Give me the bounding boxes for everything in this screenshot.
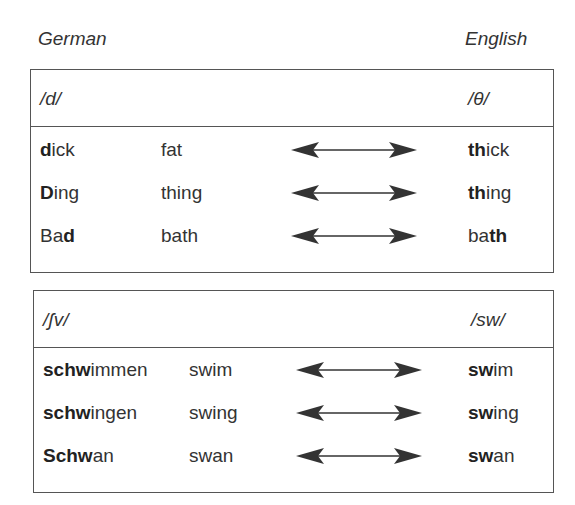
double-headed-arrow-icon bbox=[291, 130, 417, 170]
english-word: swan bbox=[468, 436, 515, 476]
german-word: Schwan bbox=[43, 436, 114, 476]
german-word: dick bbox=[40, 130, 75, 170]
double-headed-arrow-icon bbox=[296, 393, 422, 433]
double-headed-arrow-icon bbox=[291, 216, 417, 256]
word-pair-row: dick fat thick bbox=[31, 130, 553, 170]
english-phoneme: /θ/ bbox=[468, 88, 489, 110]
english-word: thick bbox=[468, 130, 509, 170]
english-column-label: English bbox=[465, 28, 527, 50]
word-pair-row: schwimmen swim swim bbox=[34, 350, 553, 390]
german-word: Bad bbox=[40, 216, 75, 256]
word-pair-row: Bad bath bath bbox=[31, 216, 553, 256]
double-headed-arrow-icon bbox=[291, 173, 417, 213]
gloss: fat bbox=[161, 130, 182, 170]
gloss: swim bbox=[189, 350, 232, 390]
english-phoneme: /sw/ bbox=[471, 309, 505, 331]
gloss: bath bbox=[161, 216, 198, 256]
double-headed-arrow-icon bbox=[296, 350, 422, 390]
word-pair-row: Schwan swan swan bbox=[34, 436, 553, 476]
double-headed-arrow-icon bbox=[296, 436, 422, 476]
german-word: Ding bbox=[40, 173, 79, 213]
english-word: swim bbox=[468, 350, 513, 390]
word-pair-row: schwingen swing swing bbox=[34, 393, 553, 433]
german-word: schwimmen bbox=[43, 350, 148, 390]
gloss: thing bbox=[161, 173, 202, 213]
group-header: /ʃv/ /sw/ bbox=[34, 291, 553, 348]
english-word: thing bbox=[468, 173, 511, 213]
gloss: swing bbox=[189, 393, 238, 433]
group-d-theta: /d/ /θ/ dick fat thick Ding thing thing … bbox=[30, 69, 554, 273]
english-word: bath bbox=[468, 216, 507, 256]
group-header: /d/ /θ/ bbox=[31, 70, 553, 127]
german-column-label: German bbox=[38, 28, 107, 50]
german-phoneme: /ʃv/ bbox=[43, 309, 69, 331]
german-phoneme: /d/ bbox=[40, 88, 61, 110]
group-shv-sw: /ʃv/ /sw/ schwimmen swim swim schwingen … bbox=[33, 290, 554, 493]
word-pair-row: Ding thing thing bbox=[31, 173, 553, 213]
english-word: swing bbox=[468, 393, 519, 433]
german-word: schwingen bbox=[43, 393, 137, 433]
gloss: swan bbox=[189, 436, 233, 476]
